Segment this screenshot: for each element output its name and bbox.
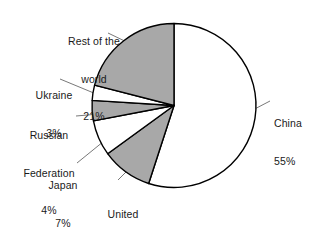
- pie-label-china-line1: China: [274, 117, 322, 130]
- pie-label-russian-federation-line1: Russian: [6, 129, 92, 142]
- pie-label-china-percent: 55%: [274, 155, 322, 168]
- pie-label-japan-line1: Japan: [36, 179, 90, 192]
- pie-label-china: China 55%: [274, 92, 322, 192]
- pie-label-rest-of-world-line1: Rest of the: [52, 35, 136, 48]
- pie-label-united-states: United States 10%: [92, 183, 154, 233]
- pie-label-japan-percent: 7%: [36, 217, 90, 230]
- pie-label-ukraine-line1: Ukraine: [18, 89, 90, 102]
- pie-label-united-states-line1: United: [92, 208, 154, 221]
- pie-chart-figure: Rest of the world 21% Ukraine 3% Russian…: [0, 0, 325, 233]
- pie-label-japan: Japan 7%: [36, 154, 90, 233]
